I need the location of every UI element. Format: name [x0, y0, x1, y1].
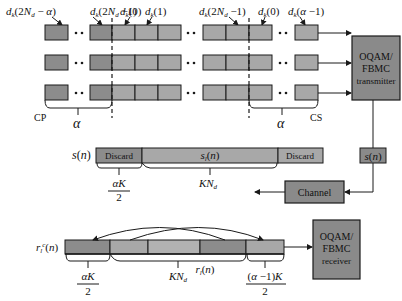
top-labels: dk(2Nd − α) dk(2Nd −1) dk(0) dk(1) dk(2N… [6, 5, 325, 25]
svg-text:OQAM/: OQAM/ [320, 231, 354, 242]
r-l-c-n-bar: rlc(n) αK 2 KNd rl(n) (α −1)K 2 [36, 228, 286, 298]
svg-text:KNd: KNd [198, 177, 218, 191]
label-dk-2nd-minus-alpha: dk(2Nd − α) [6, 5, 56, 19]
symbol-row-1 [45, 25, 351, 40]
symbol-rows [45, 18, 351, 118]
svg-text:transmitter: transmitter [357, 76, 396, 86]
oqam-fbmc-transmitter-block: OQAM/ FBMC transmitter [352, 36, 400, 100]
discard-left: Discard [105, 151, 133, 161]
svg-text:KNd: KNd [168, 270, 188, 284]
cp-cs-ofdm-oqam-diagram: dk(2Nd − α) dk(2Nd −1) dk(0) dk(1) dk(2N… [0, 0, 402, 301]
label-dk-0-a-vis: dk(0) [120, 5, 142, 19]
svg-text:FBMC: FBMC [362, 63, 390, 74]
cs-label: CS [310, 112, 322, 123]
label-dk-2nd-minus-1-b: dk(2Nd −1) [199, 5, 246, 19]
discard-right: Discard [286, 151, 314, 161]
svg-text:FBMC: FBMC [323, 243, 351, 254]
oqam-fbmc-receiver-block: OQAM/ FBMC receiver [313, 220, 360, 279]
svg-text:2: 2 [85, 285, 91, 297]
s-l-n-label: sl(n) [200, 149, 219, 163]
svg-text:αK: αK [81, 270, 95, 282]
svg-text:rl(n): rl(n) [195, 263, 214, 277]
copy-arc-right [130, 228, 263, 241]
cp-label: CP [34, 112, 47, 123]
copy-arc-left [93, 228, 225, 241]
svg-text:2: 2 [262, 285, 268, 297]
alpha-left-label: α [73, 116, 81, 131]
svg-text:s(n): s(n) [72, 148, 91, 162]
symbol-row-3 [45, 85, 351, 100]
signal-s-n-box: s(n) [360, 148, 386, 163]
svg-text:αK: αK [112, 177, 126, 189]
svg-text:(α −1)K: (α −1)K [248, 270, 284, 283]
label-dk-0-b: dk(0) [258, 5, 280, 19]
svg-text:receiver: receiver [322, 256, 351, 266]
svg-text:rlc(n): rlc(n) [36, 241, 59, 255]
label-dk-1: dk(1) [145, 5, 167, 19]
alpha-right-label: α [277, 116, 285, 131]
cp-bracket [45, 100, 112, 108]
channel-block: Channel [285, 181, 344, 203]
symbol-row-2 [45, 55, 351, 70]
svg-text:OQAM/: OQAM/ [359, 51, 393, 62]
svg-text:Channel: Channel [298, 187, 332, 198]
svg-text:2: 2 [116, 191, 122, 203]
svg-text:s(n): s(n) [364, 150, 381, 163]
label-dk-alpha-minus-1: dk(α −1) [288, 5, 325, 19]
cs-bracket [249, 100, 318, 108]
